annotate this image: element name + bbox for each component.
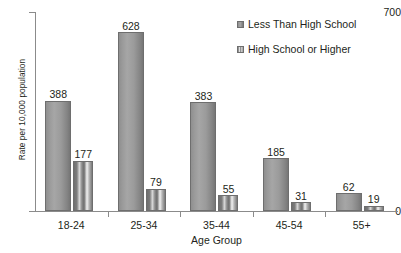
x-axis-category-label: 45-54 <box>253 219 326 231</box>
bar-value-label: 62 <box>343 182 355 193</box>
bar: 383 <box>190 102 216 211</box>
bar: 185 <box>263 158 289 211</box>
bar: 19 <box>364 206 384 211</box>
x-axis-tick <box>325 212 326 217</box>
bar-value-label: 628 <box>122 21 140 32</box>
bar: 62 <box>336 193 362 211</box>
x-axis-category-label: 25-34 <box>108 219 181 231</box>
bar: 31 <box>291 202 311 211</box>
bar-chart: Rate per 10,000 population 700 0 Age Gro… <box>0 0 401 253</box>
bar: 388 <box>45 101 71 211</box>
x-axis-category-label: 18-24 <box>35 219 108 231</box>
legend-item: High School or Higher <box>237 43 356 55</box>
x-axis-tick <box>253 212 254 217</box>
bar: 177 <box>73 161 93 211</box>
chart-legend: Less Than High SchoolHigh School or High… <box>237 18 356 68</box>
bar: 79 <box>146 189 166 211</box>
legend-item: Less Than High School <box>237 18 356 30</box>
bar-value-label: 383 <box>195 91 213 102</box>
x-axis-tick <box>180 212 181 217</box>
bar-value-label: 19 <box>368 194 380 205</box>
bar-value-label: 388 <box>50 89 68 100</box>
x-axis-line <box>35 211 398 212</box>
bar: 55 <box>218 195 238 211</box>
bar-value-label: 31 <box>295 191 307 202</box>
bar: 628 <box>118 32 144 211</box>
bar-value-label: 79 <box>150 177 162 188</box>
x-axis-tick <box>108 212 109 217</box>
legend-swatch-icon <box>237 21 244 28</box>
bar-value-label: 185 <box>267 147 285 158</box>
legend-label: High School or Higher <box>248 43 351 55</box>
bar-group: 388177 <box>35 12 108 211</box>
bar-group: 62879 <box>108 12 181 211</box>
legend-label: Less Than High School <box>248 18 356 30</box>
x-axis-title: Age Group <box>35 234 398 246</box>
x-axis-category-label: 55+ <box>325 219 398 231</box>
y-axis-title: Rate per 10,000 population <box>18 35 27 185</box>
bar-value-label: 55 <box>223 184 235 195</box>
x-axis-category-label: 35-44 <box>180 219 253 231</box>
legend-swatch-icon <box>237 46 244 53</box>
bar-value-label: 177 <box>75 149 93 160</box>
